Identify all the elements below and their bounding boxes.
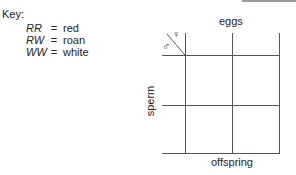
key-entry-ww: WW= white	[26, 46, 89, 58]
genotype: RW	[26, 34, 48, 46]
grid-line-right	[279, 33, 280, 154]
sperm-label: sperm	[144, 85, 156, 117]
genotype: WW	[26, 46, 48, 58]
female-symbol-icon: ♀	[172, 29, 180, 40]
key-entry-rr: RR= red	[26, 22, 79, 34]
eggs-label: eggs	[219, 15, 243, 27]
genotype: RR	[26, 22, 48, 34]
key-entry-rw: RW= roan	[26, 34, 85, 46]
key-title: Key:	[2, 8, 24, 20]
phenotype: roan	[63, 34, 85, 46]
grid-line-middle	[162, 105, 280, 106]
male-symbol-icon: ♂	[162, 41, 170, 52]
grid-line-bottom	[162, 153, 280, 154]
phenotype: red	[63, 22, 79, 34]
grid-line-center	[232, 33, 233, 154]
grid-line-left	[185, 33, 186, 154]
top-bar-decoration	[242, 0, 296, 2]
grid-line-top	[162, 55, 280, 56]
offspring-label: offspring	[211, 156, 253, 168]
phenotype: white	[63, 46, 89, 58]
